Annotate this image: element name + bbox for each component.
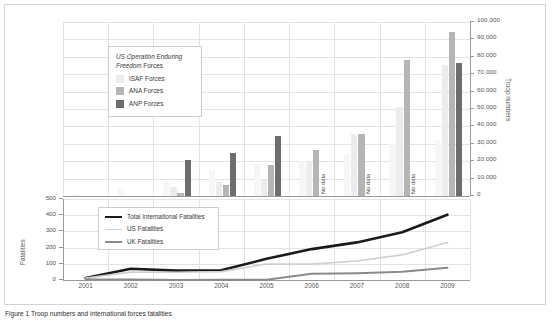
legend-item-total-international: Total International Fatalities [105,212,212,221]
troops-tick-label: 90,000 [477,33,497,40]
troops-tick-label: 30,000 [477,138,497,145]
year-label: 2005 [259,282,273,289]
bar-ana-forces [223,185,229,196]
fatalities-tick-label: 300 [46,226,56,233]
bar-us-operation-enduring-freedom-forces [73,194,79,196]
bar-group [435,22,463,196]
anp-color-swatch [116,100,124,108]
fatalities-tick-label: 400 [46,210,56,217]
bar-isaf-forces [170,187,176,196]
troops-vertical-gridline [244,22,245,196]
year-label: 2008 [395,282,409,289]
troops-vertical-gridline [425,22,426,196]
uk-fatalities-line-swatch [105,241,122,243]
legend-item-anp: ANP Forces [116,99,194,108]
bar-group [254,22,282,196]
troops-tick-label: 0 [477,190,481,197]
figure-container: No dataNo dataNo data 100,00090,00080,00… [0,0,556,323]
bar-ana-forces [268,165,274,196]
bar-group [209,22,237,196]
troops-gridline [63,196,470,197]
troops-vertical-gridline [289,22,290,196]
bar-isaf-forces [216,182,222,196]
fatalities-axis-spine [63,199,64,280]
bar-ana-forces [313,150,319,196]
legend-title-line2-rest: Forces [143,62,163,69]
legend-title-line1: US Operation Enduring [116,53,182,60]
bar-us-operation-enduring-freedom-forces [389,144,395,196]
bar-ana-forces [449,32,455,196]
year-label: 2006 [305,282,319,289]
legend-item-us-fatalities: US Fatalities [105,225,212,234]
bar-us-operation-enduring-freedom-forces [209,170,215,196]
bar-isaf-forces [306,161,312,196]
year-label: 2002 [124,282,138,289]
troops-vertical-gridline [334,22,335,196]
line-chart-legend: Total International Fatalities US Fatali… [98,207,219,250]
bar-us-operation-enduring-freedom-forces [163,182,169,196]
year-axis-labels: 200120022003200420052006200720082009 [63,282,470,296]
no-data-label: No data [410,174,416,194]
fatalities-vertical-gridline [470,199,471,280]
total-international-line-swatch [105,216,122,218]
legend-item-isaf: ISAF Forces [116,74,194,83]
bar-us-operation-enduring-freedom-forces [254,163,260,196]
bar-chart-legend: US Operation Enduring Freedom Forces ISA… [108,46,202,117]
troops-axis-spine [470,22,471,196]
bar-us-operation-enduring-freedom-forces [118,189,124,196]
legend-label-us-fatalities: US Fatalities [127,225,163,233]
fatalities-axis-ticks: 5004003002001000 [0,199,63,280]
bar-us-operation-enduring-freedom-forces [435,140,441,196]
fatalities-tick-label: 0 [53,275,56,282]
bar-isaf-forces [351,134,357,196]
legend-label-ana: ANA Forces [129,87,163,95]
bar-ana-forces [404,60,410,196]
us-fatalities-line-swatch [105,229,122,230]
legend-item-uk-fatalities: UK Fatalities [105,237,212,246]
troops-tick-label: 60,000 [477,86,497,93]
legend-label-total-international: Total International Fatalities [127,213,205,221]
troops-vertical-gridline [380,22,381,196]
troops-tick-label: 10,000 [477,173,497,180]
fatalities-tick-label: 100 [46,259,56,266]
no-data-label: No data [320,174,326,194]
year-label: 2004 [214,282,228,289]
year-label: 2009 [440,282,454,289]
year-label: 2003 [169,282,183,289]
legend-label-anp: ANP Forces [129,100,163,108]
bar-anp-forces [456,63,462,196]
bar-group: No data [344,22,372,196]
bar-isaf-forces [396,107,402,196]
bar-us-operation-enduring-freedom-forces [299,161,305,196]
bar-ana-forces [358,134,364,196]
fatalities-axis-title: Fatalities [19,239,26,265]
bar-group: No data [389,22,417,196]
bar-anp-forces [185,160,191,196]
ana-color-swatch [116,87,124,95]
legend-item-ana: ANA Forces [116,87,194,96]
bar-isaf-forces [442,65,448,196]
troops-tick-label: 20,000 [477,155,497,162]
year-label: 2007 [350,282,364,289]
legend-title-us-oef: US Operation Enduring Freedom Forces [116,53,194,70]
legend-label-uk-fatalities: UK Fatalities [127,238,163,246]
bar-us-operation-enduring-freedom-forces [344,155,350,196]
legend-label-isaf: ISAF Forces [129,75,165,83]
troops-vertical-gridline [63,22,64,196]
bar-anp-forces [275,136,281,196]
troops-axis-title: Troop numbers [505,78,512,121]
bar-group: No data [299,22,327,196]
isaf-color-swatch [116,75,124,83]
bar-ana-forces [177,193,183,196]
fatalities-tick-label: 500 [46,194,56,201]
fatalities-tick-label: 200 [46,243,56,250]
bar-isaf-forces [261,180,267,196]
troops-tick-label: 40,000 [477,120,497,127]
no-data-label: No data [365,174,371,194]
troops-tick-label: 80,000 [477,51,497,58]
troops-tick-label: 100,000 [477,16,500,23]
troops-tick-label: 50,000 [477,103,497,110]
bar-group [73,22,101,196]
troops-tick-label: 70,000 [477,68,497,75]
year-label: 2001 [78,282,92,289]
